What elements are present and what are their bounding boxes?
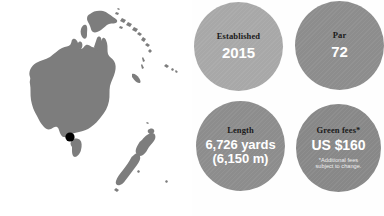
solomon-island-6 (145, 43, 150, 47)
tasmania (71, 139, 82, 158)
norfolk-island (137, 170, 140, 173)
vanuatu-island-1 (142, 57, 145, 62)
solomon-island-2 (126, 22, 132, 27)
new-britain (119, 26, 123, 29)
solomon-island-3 (132, 27, 138, 32)
misc-island-1 (175, 70, 178, 73)
infographic-root: Established 2015 Par 72 Length 6,726 yar… (0, 0, 384, 216)
papua-new-guinea (87, 11, 117, 33)
stat-value-length-yards: 6,726 yards (205, 138, 275, 152)
stewart-island (114, 188, 119, 192)
chatham-island (165, 180, 168, 183)
misc-island-3 (146, 122, 149, 124)
australia-landmass (29, 38, 115, 137)
vanuatu-island-2 (141, 64, 144, 69)
stat-value-established: 2015 (222, 45, 255, 61)
stat-circle-green-fees: Green fees* US $160 *Additional fees sub… (296, 104, 381, 192)
stat-label-length: Length (227, 126, 254, 135)
course-location-marker[interactable] (65, 132, 74, 141)
solomon-island-7 (148, 49, 152, 53)
fiji-island-1 (164, 64, 169, 68)
stat-value-length-meters: (6,150 m) (213, 152, 269, 166)
stat-value-green-fees: US $160 (312, 138, 366, 153)
stat-label-par: Par (333, 31, 347, 40)
oceania-map (0, 0, 192, 216)
map-panel (0, 0, 192, 216)
new-caledonia (132, 74, 141, 83)
nz-north-island (136, 133, 156, 156)
misc-island-2 (117, 8, 120, 10)
stat-circle-established: Established 2015 (194, 2, 283, 91)
stat-value-par: 72 (331, 44, 348, 60)
stat-circle-par: Par 72 (295, 1, 384, 90)
fiji-island-2 (171, 68, 174, 71)
stat-label-established: Established (217, 32, 260, 41)
solomon-island-4 (137, 32, 142, 36)
solomon-island-5 (141, 37, 146, 42)
stat-label-green-fees: Green fees* (317, 126, 361, 135)
bismarck-island (115, 12, 119, 15)
stat-note-green-fees-line2: subject to change. (316, 163, 362, 169)
nz-south-island (116, 154, 141, 186)
nz-north-cape (148, 129, 155, 135)
png-tail (81, 25, 88, 39)
stat-circle-length: Length 6,726 yards (6,150 m) (196, 101, 285, 191)
stats-panel: Established 2015 Par 72 Length 6,726 yar… (192, 0, 384, 216)
solomon-island-1 (120, 18, 126, 23)
map-landmasses (29, 8, 178, 192)
